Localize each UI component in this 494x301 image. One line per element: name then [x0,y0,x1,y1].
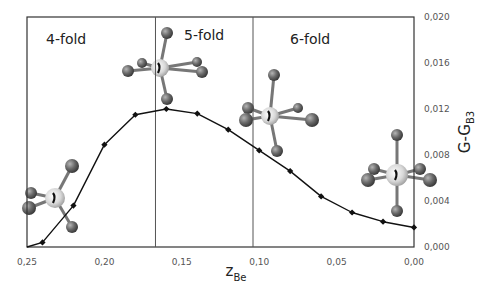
ligand-atom [391,205,403,217]
ligand-atom [305,113,319,127]
y-axis-ticks: 0,0000,0040,0080,0120,0160,020 [424,12,450,252]
y-tick-label: 0,000 [424,242,450,252]
y-tick-label: 0,020 [424,12,450,22]
x-tick-label: 0,00 [404,257,424,267]
chart: 4-fold5-fold6-fold 0,250,200,150,100,050… [0,0,494,301]
x-tick-label: 0,05 [327,257,347,267]
ligand-atom [268,69,280,81]
region-label: 6-fold [290,31,330,47]
ligand-atom [368,163,380,175]
ligand-atom [66,221,78,233]
ligand-atom [361,173,375,187]
ligand-atom [242,102,254,114]
series-line [27,109,414,247]
region-label: 4-fold [46,31,86,47]
data-point-marker [349,209,355,215]
ligand-atom [293,103,303,113]
ligand-atom [122,65,134,77]
ligand-atom [271,145,283,157]
x-tick-label: 0,20 [94,257,114,267]
plot-frame [27,17,414,247]
ligand-atom [414,163,426,175]
ligand-atom [137,58,147,68]
ligand-atom [391,129,403,141]
y-tick-label: 0,012 [424,104,450,114]
region-label: 5-fold [184,27,224,43]
y-tick-label: 0,008 [424,150,450,160]
y-tick-label: 0,016 [424,58,450,68]
data-series [27,106,417,247]
x-tick-label: 0,10 [249,257,269,267]
data-point-marker [411,224,417,230]
ligand-atom [22,201,36,215]
x-axis-ticks: 0,250,200,150,100,050,00 [17,257,424,267]
x-axis-label: zBe [226,262,247,283]
ligand-atom [239,113,253,127]
ligand-atom [192,57,202,67]
ligand-atom [423,173,437,187]
data-point-marker [163,106,169,112]
ligand-atom [161,93,173,105]
x-tick-label: 0,15 [172,257,192,267]
data-point-marker [194,110,200,116]
region-labels: 4-fold5-fold6-fold [46,27,330,47]
y-axis-label: G-GB3 [456,111,476,153]
data-point-marker [380,219,386,225]
ligand-atom [65,159,79,173]
y-tick-label: 0,004 [424,196,450,206]
x-tick-label: 0,25 [17,257,37,267]
ligand-atom [161,27,173,39]
ligand-atom [196,66,208,78]
region-dividers [155,17,253,247]
